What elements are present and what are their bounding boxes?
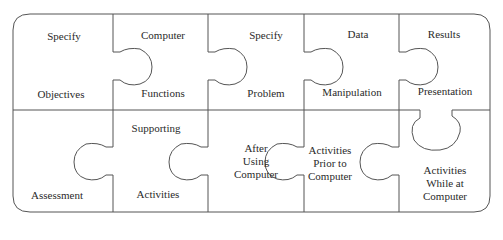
piece-activities-prior-line3: Computer xyxy=(308,170,352,183)
piece-specify-problem-bottom: Problem xyxy=(247,87,284,100)
piece-after-using-computer-line1: After xyxy=(244,142,267,155)
piece-activities-while-line1: Activities xyxy=(424,164,467,177)
piece-specify-objectives-bottom: Objectives xyxy=(37,88,84,101)
piece-supporting-activities-bottom: Activities xyxy=(137,188,180,201)
piece-computer-functions-top: Computer xyxy=(141,29,185,42)
piece-supporting-activities-top: Supporting xyxy=(132,122,181,135)
piece-specify-problem-top: Specify xyxy=(249,29,283,42)
piece-computer-functions-bottom: Functions xyxy=(141,87,184,100)
piece-activities-while-line3: Computer xyxy=(423,190,467,203)
piece-activities-prior-line2: Prior to xyxy=(313,157,346,170)
piece-data-manipulation-top: Data xyxy=(348,28,369,41)
piece-specify-objectives-top: Specify xyxy=(47,30,81,43)
piece-activities-while-line2: While at xyxy=(426,177,464,190)
piece-data-manipulation-bottom: Manipulation xyxy=(322,86,381,99)
piece-after-using-computer-line2: Using xyxy=(243,155,269,168)
piece-results-presentation-top: Results xyxy=(428,28,460,41)
piece-after-using-computer-line3: Computer xyxy=(234,168,278,181)
piece-results-presentation-bottom: Presentation xyxy=(418,85,472,98)
piece-activities-prior-line1: Activities xyxy=(309,144,352,157)
piece-assessment: Assessment xyxy=(31,189,83,202)
